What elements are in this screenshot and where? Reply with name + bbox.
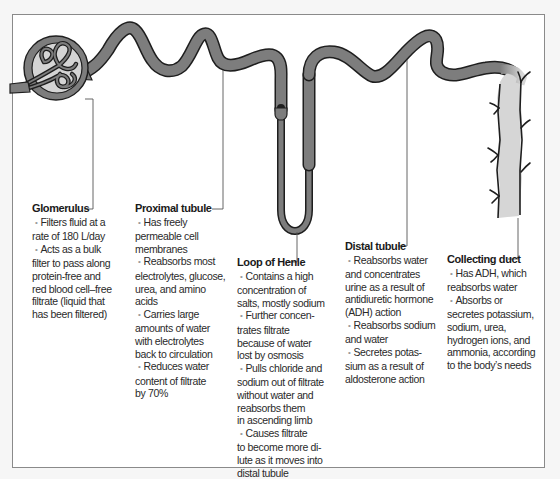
label-line: Secretes potas- <box>353 346 421 358</box>
collecting-duct-label: Collecting duct •Has ADH, which reabsorb… <box>447 253 547 371</box>
label-line: reabsorbs water <box>447 281 547 294</box>
label-line: content of filtrate <box>135 375 235 388</box>
label-line: Has ADH, which <box>455 267 526 279</box>
label-line: sodium, urea, <box>447 321 547 334</box>
label-line: filter to pass along <box>32 257 132 270</box>
loop-of-henle-label: Loop of Henle •Contains a high concentra… <box>237 256 337 479</box>
bullet-icon: • <box>240 272 242 281</box>
bullet-icon: • <box>240 364 242 373</box>
label-line: amounts of water <box>135 322 235 335</box>
label-line: to the body’s needs <box>447 359 547 372</box>
collecting-duct-shape <box>488 69 530 218</box>
distal-tubule-label: Distal tubule •Reabsorbs water and conce… <box>345 240 445 386</box>
distal-tubule-title: Distal tubule <box>345 240 445 253</box>
label-line: Reabsorbs most <box>143 255 215 267</box>
label-line: reabsorbs them <box>237 402 337 415</box>
label-line: aldosterone action <box>345 373 445 386</box>
label-line: Further concen- <box>245 309 314 321</box>
bullet-icon: • <box>35 218 37 227</box>
label-line: urine as a result of <box>345 281 445 294</box>
label-line: Reabsorbs water <box>353 254 427 266</box>
proximal-tubule-leader-line <box>212 70 223 209</box>
label-line: and concentrates <box>345 268 445 281</box>
label-line: (ADH) action <box>345 306 445 319</box>
glomerulus-label: Glomerulus •Filters fluid at a rate of 1… <box>32 202 132 320</box>
label-line: membranes <box>135 243 235 256</box>
label-line: to become more di- <box>237 441 337 454</box>
label-line: lute as it moves into <box>237 454 337 467</box>
bullet-icon: • <box>240 429 242 438</box>
glomerulus-leader-line <box>84 99 93 209</box>
glomerulus-title: Glomerulus <box>32 202 132 215</box>
label-line: and water <box>345 333 445 346</box>
bullet-icon: • <box>138 310 140 319</box>
label-line: Acts as a bulk <box>40 243 100 255</box>
loop-of-henle-title: Loop of Henle <box>237 256 337 269</box>
label-line: red blood cell–free <box>32 283 132 296</box>
label-line: filtrate (liquid that <box>32 295 132 308</box>
proximal-tubule-title: Proximal tubule <box>135 202 235 215</box>
label-line: hydrogen ions, and <box>447 334 547 347</box>
label-line: secretes potassium, <box>447 308 547 321</box>
collecting-duct-title: Collecting duct <box>447 253 547 266</box>
bullet-icon: • <box>450 296 452 305</box>
bullet-icon: • <box>138 257 140 266</box>
label-line: without water and <box>237 389 337 402</box>
label-line: Reabsorbs sodium <box>353 319 435 331</box>
distal-tubule-leader-line <box>398 60 407 246</box>
label-line: Pulls chloride and <box>245 362 322 374</box>
bullet-icon: • <box>138 218 140 227</box>
bullet-icon: • <box>450 269 452 278</box>
bullet-icon: • <box>348 256 350 265</box>
label-line: concentration of <box>237 284 337 297</box>
glomerulus-shape <box>10 36 92 100</box>
label-line: Carries large <box>143 308 199 320</box>
label-line: Causes filtrate <box>245 427 307 439</box>
label-line: permeable cell <box>135 230 235 243</box>
bullet-icon: • <box>35 245 37 254</box>
label-line: with electrolytes <box>135 335 235 348</box>
label-line: lost by osmosis <box>237 349 337 362</box>
label-line: in ascending limb <box>237 414 337 427</box>
label-line: ammonia, according <box>447 346 547 359</box>
label-line: trates filtrate <box>237 324 337 337</box>
label-line: antidiuretic hormone <box>345 293 445 306</box>
label-line: by 70% <box>135 387 235 400</box>
proximal-tubule-shape <box>78 28 281 110</box>
label-line: salts, mostly sodium <box>237 297 337 310</box>
label-line: protein-free and <box>32 270 132 283</box>
label-line: acids <box>135 295 235 308</box>
distal-tubule-shape <box>309 36 515 77</box>
bullet-icon: • <box>348 321 350 330</box>
label-line: rate of 180 L/day <box>32 230 132 243</box>
label-line: Filters fluid at a <box>40 216 105 228</box>
bullet-icon: • <box>138 362 140 371</box>
label-line: sium as a result of <box>345 360 445 373</box>
label-line: sodium out of filtrate <box>237 376 337 389</box>
label-line: Has freely <box>143 216 187 228</box>
label-line: has been filtered) <box>32 308 132 321</box>
label-line: Reduces water <box>143 360 208 372</box>
bullet-icon: • <box>348 348 350 357</box>
label-line: Contains a high <box>245 270 313 282</box>
label-line: distal tubule <box>237 467 337 479</box>
label-line: electrolytes, glucose, <box>135 270 235 283</box>
label-line: back to circulation <box>135 348 235 361</box>
label-line: because of water <box>237 337 337 350</box>
label-line: urea, and amino <box>135 283 235 296</box>
bullet-icon: • <box>240 311 242 320</box>
label-line: Absorbs or <box>455 294 502 306</box>
proximal-tubule-label: Proximal tubule •Has freely permeable ce… <box>135 202 235 400</box>
